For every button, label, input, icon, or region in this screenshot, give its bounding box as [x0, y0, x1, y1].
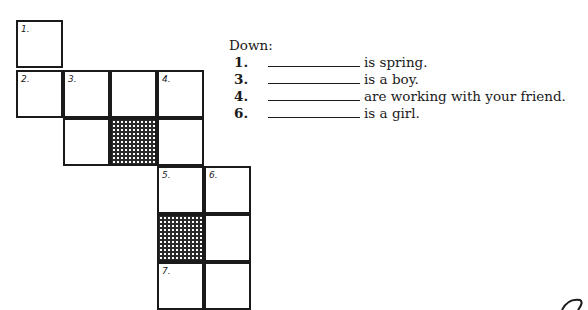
crossword-cell[interactable]: 1. [16, 20, 63, 68]
clues-down: Down: 1. is spring. 3. is a boy. 4. are … [229, 37, 566, 122]
clue-text: is a girl. [364, 105, 420, 122]
crossword-cell[interactable] [204, 214, 251, 262]
crossword-cell[interactable] [204, 262, 251, 310]
cell-number: 2. [21, 74, 30, 84]
answer-blank[interactable] [268, 72, 360, 84]
cell-number: 1. [21, 24, 30, 34]
answer-blank[interactable] [268, 106, 360, 118]
answer-blank[interactable] [268, 89, 360, 101]
cell-number: 6. [209, 170, 218, 180]
cell-number: 3. [68, 74, 77, 84]
answer-blank[interactable] [268, 55, 360, 67]
crossword-cell[interactable]: 6. [204, 166, 251, 214]
crossword-cell[interactable] [110, 70, 157, 118]
crossword-cell[interactable]: 7. [157, 262, 204, 310]
cell-number: 7. [162, 266, 171, 276]
clue-text: is spring. [364, 54, 428, 71]
clue-3: 3. is a boy. [229, 71, 566, 88]
clue-6: 6. is a girl. [229, 105, 566, 122]
crossword-cell[interactable]: 5. [157, 166, 204, 214]
clue-text: is a boy. [364, 71, 419, 88]
crossword-cell[interactable]: 3. [63, 70, 110, 118]
clue-number: 1. [229, 54, 268, 71]
clue-number: 3. [229, 71, 268, 88]
clue-text: are working with your friend. [364, 88, 566, 105]
cell-number: 5. [162, 170, 171, 180]
crossword-cell[interactable] [63, 118, 110, 166]
clue-number: 4. [229, 88, 268, 105]
crossword-cell[interactable]: 4. [157, 70, 204, 118]
clue-4: 4. are working with your friend. [229, 88, 566, 105]
decorative-scribble-icon [548, 296, 588, 310]
crossword-cell[interactable] [157, 118, 204, 166]
clue-1: 1. is spring. [229, 54, 566, 71]
shaded-cell [157, 214, 204, 262]
clue-number: 6. [229, 105, 268, 122]
cell-number: 4. [162, 74, 171, 84]
shaded-cell [110, 118, 157, 166]
clues-heading: Down: [229, 37, 566, 54]
crossword-cell[interactable]: 2. [16, 70, 63, 118]
